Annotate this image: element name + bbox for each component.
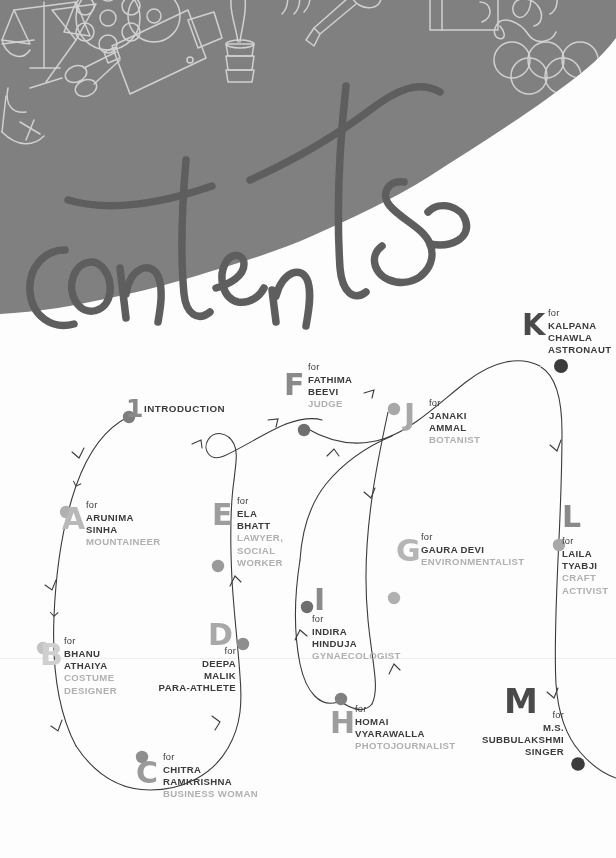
entry-h[interactable]: H for HOMAI VYARAWALLA PHOTOJOURNALIST — [330, 704, 456, 753]
entry-a-role: MOUNTAINEER — [86, 536, 161, 548]
entry-k-role: ASTRONAUT — [548, 344, 611, 356]
entry-h-letter: H — [330, 708, 354, 738]
entry-j-role: BOTANIST — [429, 434, 480, 446]
entry-l[interactable]: L for LAILA TYABJI CRAFT ACTIVIST — [562, 498, 609, 597]
entry-a-name-line-2: SINHA — [86, 524, 161, 536]
entry-d-name-line-2: MALIK — [114, 670, 236, 682]
entry-m-name-line-1: M.S. — [452, 722, 564, 734]
entry-j-letter: J — [404, 400, 414, 430]
entry-c[interactable]: C for CHITRA RAMKRISHNA BUSINESS WOMAN — [136, 752, 258, 801]
entry-d-letter: D — [208, 620, 232, 650]
dot-f — [298, 424, 310, 436]
entry-g-letter: G — [396, 536, 420, 566]
entry-e-name-line-2: BHATT — [237, 520, 283, 532]
entry-m-name-line-2: SUBBULAKSHMI — [452, 734, 564, 746]
entry-j[interactable]: J for JANAKI AMMAL BOTANIST — [404, 398, 480, 447]
entry-e[interactable]: E for ELA BHATT LAWYER, SOCIAL WORKER — [212, 496, 283, 569]
entry-f-letter: F — [284, 370, 304, 400]
entry-l-role-line-1: CRAFT — [562, 572, 609, 584]
entry-f-name-line-2: BEEVI — [308, 386, 352, 398]
entry-k-name-line-2: CHAWLA — [548, 332, 611, 344]
entry-d[interactable]: D for DEEPA MALIK PARA-ATHLETE — [114, 620, 236, 695]
entry-k-letter: K — [522, 310, 544, 340]
entry-h-for: for — [355, 704, 456, 716]
entry-g-name-line-1: GAURA DEVI — [421, 544, 525, 556]
dot-m — [571, 757, 585, 771]
entry-e-role-line-3: WORKER — [237, 557, 283, 569]
entry-j-name-line-1: JANAKI — [429, 410, 480, 422]
entry-a-letter: A — [62, 504, 84, 534]
dot-k — [554, 359, 568, 373]
entry-l-name-line-1: LAILA — [562, 548, 609, 560]
entry-k-name-line-1: KALPANA — [548, 320, 611, 332]
entry-e-letter: E — [212, 500, 232, 530]
entry-m-role: SINGER — [452, 746, 564, 758]
entry-i-name-line-1: INDIRA — [312, 626, 401, 638]
entry-a-name-line-1: ARUNIMA — [86, 512, 161, 524]
entry-k-for: for — [548, 308, 611, 320]
entry-i[interactable]: I for INDIRA HINDUJA GYNAECOLOGIST — [312, 586, 401, 663]
entry-i-for: for — [312, 614, 401, 626]
entry-i-name-line-2: HINDUJA — [312, 638, 401, 650]
entry-b-role-line-1: COSTUME — [64, 672, 117, 684]
entry-k[interactable]: K for KALPANA CHAWLA ASTRONAUT — [522, 308, 611, 357]
entry-i-letter: I — [314, 585, 324, 615]
entry-b-role-line-2: DESIGNER — [64, 685, 117, 697]
entry-c-letter: C — [136, 758, 157, 788]
entry-b-for: for — [64, 636, 117, 648]
entry-l-for: for — [562, 536, 609, 548]
path-d-to-e — [206, 424, 286, 480]
entry-b-name-line-2: ATHAIYA — [64, 660, 117, 672]
entry-g-for: for — [421, 532, 525, 544]
entry-h-name-line-2: VYARAWALLA — [355, 728, 456, 740]
entry-a-for: for — [86, 500, 161, 512]
entry-f-name-line-1: FATHIMA — [308, 374, 352, 386]
entry-f[interactable]: F for FATHIMA BEEVI JUDGE — [284, 362, 352, 411]
entry-f-for: for — [308, 362, 352, 374]
intro-marker: 1 — [126, 396, 143, 421]
entry-i-role: GYNAECOLOGIST — [312, 650, 401, 662]
entry-b-letter: B — [40, 640, 62, 670]
entry-j-name-line-2: AMMAL — [429, 422, 480, 434]
contents-page: INTRODUCTION 1 A for ARUNIMA SINHA MOUNT… — [0, 0, 616, 858]
entry-l-letter: L — [562, 502, 580, 532]
entry-e-role-line-1: LAWYER, — [237, 532, 283, 544]
entry-g-role: ENVIRONMENTALIST — [421, 556, 525, 568]
entry-l-role-line-2: ACTIVIST — [562, 585, 609, 597]
entry-c-for: for — [163, 752, 258, 764]
entry-c-name-line-1: CHITRA — [163, 764, 258, 776]
dot-d — [237, 638, 249, 650]
entry-a[interactable]: A for ARUNIMA SINHA MOUNTAINEER — [62, 500, 161, 549]
entry-e-role-line-2: SOCIAL — [237, 545, 283, 557]
entry-m-letter: M — [504, 684, 537, 718]
path-e-to-f — [286, 419, 322, 424]
entry-h-role: PHOTOJOURNALIST — [355, 740, 456, 752]
dot-j — [388, 403, 400, 415]
entry-b[interactable]: B for BHANU ATHAIYA COSTUME DESIGNER — [40, 636, 117, 697]
path-i-up — [300, 436, 392, 560]
entry-l-name-line-2: TYABJI — [562, 560, 609, 572]
entry-g[interactable]: G for GAURA DEVI ENVIRONMENTALIST — [396, 532, 525, 568]
entry-j-for: for — [429, 398, 480, 410]
entry-h-name-line-1: HOMAI — [355, 716, 456, 728]
entry-d-name-line-1: DEEPA — [114, 658, 236, 670]
entry-f-role: JUDGE — [308, 398, 352, 410]
entry-e-for: for — [237, 496, 283, 508]
introduction-label: INTRODUCTION — [144, 403, 225, 414]
entry-m[interactable]: M for M.S. SUBBULAKSHMI SINGER — [452, 684, 564, 759]
entry-d-role: PARA-ATHLETE — [114, 682, 236, 694]
entry-e-name-line-1: ELA — [237, 508, 283, 520]
entry-c-role: BUSINESS WOMAN — [163, 788, 258, 800]
entry-c-name-line-2: RAMKRISHNA — [163, 776, 258, 788]
entry-b-name-line-1: BHANU — [64, 648, 117, 660]
